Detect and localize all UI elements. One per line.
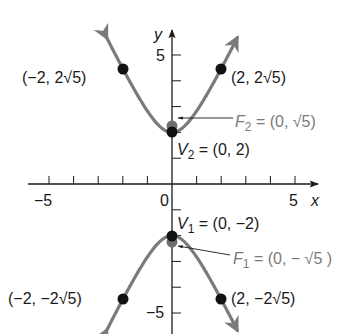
label-focus-f1: F1 = (0, − √5 ) xyxy=(233,250,332,271)
x-tick-label-neg5: −5 xyxy=(34,192,52,209)
point-neg2-pos xyxy=(118,64,129,75)
point-neg2-neg xyxy=(118,294,129,305)
label-point-neg2-neg: (−2, −2√5) xyxy=(8,290,82,307)
v2-rest: = (0, 2) xyxy=(194,141,250,158)
x-tick-label-5: 5 xyxy=(289,192,298,209)
y-tick-label-5: 5 xyxy=(156,47,165,64)
f1-rest: = (0, − √5 ) xyxy=(249,250,332,267)
v1-rest: = (0, −2) xyxy=(194,215,259,232)
label-point-pos2-neg: (2, −2√5) xyxy=(231,290,295,307)
point-pos2-pos xyxy=(216,64,227,75)
x-tick-label-0: 0 xyxy=(160,192,169,209)
label-vertex-v2: V2 = (0, 2) xyxy=(177,141,250,162)
point-pos2-neg xyxy=(216,294,227,305)
y-tick-label-neg5: −5 xyxy=(146,304,164,321)
focus-f1-leader xyxy=(178,246,230,255)
vertex-v1-point xyxy=(167,231,178,242)
vertex-v2-point xyxy=(167,127,178,138)
f2-rest: = (0, √5) xyxy=(251,113,315,130)
hyperbola-figure: −5 0 5 x y 5 −5 (−2, 2√5) (2, 2√5) (−2, … xyxy=(0,0,352,334)
label-vertex-v1: V1 = (0, −2) xyxy=(177,215,259,236)
y-axis-label: y xyxy=(153,26,163,43)
label-point-pos2-pos: (2, 2√5) xyxy=(231,69,286,86)
label-focus-f2: F2 = (0, √5) xyxy=(235,113,316,134)
label-point-neg2-pos: (−2, 2√5) xyxy=(22,69,86,86)
x-axis-label: x xyxy=(310,192,320,209)
